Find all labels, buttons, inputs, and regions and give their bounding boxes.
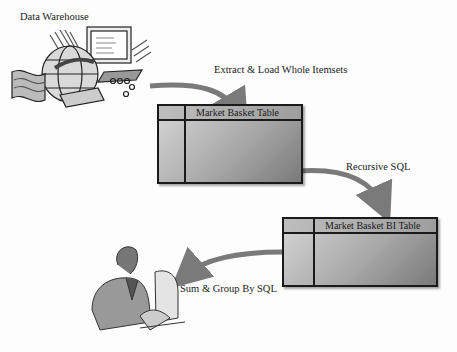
analyst-icon xyxy=(0,0,457,352)
